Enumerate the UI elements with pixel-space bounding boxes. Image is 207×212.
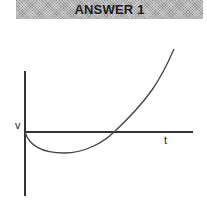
velocity-curve — [25, 49, 174, 153]
velocity-time-graph — [0, 0, 207, 212]
x-axis-label: t — [164, 134, 167, 146]
y-axis-label: v — [15, 119, 21, 131]
